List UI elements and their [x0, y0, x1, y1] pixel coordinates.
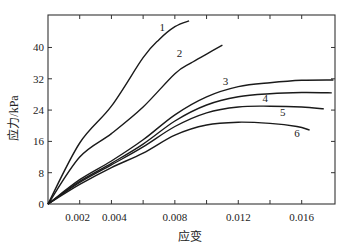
x-tick-label: 0.004 [102, 211, 127, 223]
curve-label-4: 4 [262, 92, 268, 104]
curve-3 [48, 80, 333, 204]
curve-label-2: 2 [177, 47, 183, 59]
y-tick-label: 40 [33, 41, 45, 53]
curve-label-6: 6 [294, 127, 300, 139]
y-tick-label: 32 [33, 73, 44, 85]
y-tick-label: 8 [39, 167, 45, 179]
curve-label-3: 3 [223, 75, 229, 87]
curve-1 [48, 21, 189, 204]
curve-label-1: 1 [159, 21, 165, 33]
curve-label-5: 5 [280, 106, 286, 118]
curve-labels: 123456 [159, 21, 300, 139]
curves [48, 21, 333, 204]
x-tick-label: 0.012 [226, 211, 251, 223]
x-axis-title: 应变 [178, 229, 202, 244]
x-tick-label: 0.008 [162, 211, 187, 223]
y-tick-label: 0 [39, 198, 45, 210]
curve-6 [48, 122, 310, 204]
y-tick-label: 24 [33, 104, 45, 116]
y-axis-title: 应力/kPa [6, 95, 21, 141]
stress-strain-chart: 0.0020.0040.0080.0120.016 0816243240 123… [0, 0, 342, 250]
x-tick-label: 0.016 [289, 211, 314, 223]
y-tick-label: 16 [33, 135, 45, 147]
curve-5 [48, 106, 324, 204]
x-tick-label: 0.002 [65, 211, 90, 223]
